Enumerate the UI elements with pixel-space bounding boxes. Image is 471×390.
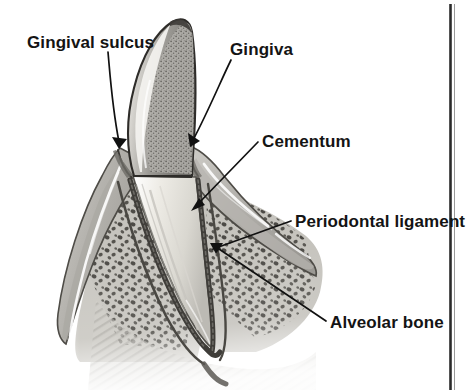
leader-gingiva bbox=[193, 60, 231, 140]
leader-gingival-sulcus bbox=[108, 52, 119, 142]
label-alveolar-bone: Alveolar bone bbox=[330, 313, 444, 332]
periodontium-illustration: Gingival sulcus Gingiva Cementum Periodo… bbox=[0, 0, 471, 390]
label-gingival-sulcus: Gingival sulcus bbox=[27, 33, 154, 52]
label-gingiva: Gingiva bbox=[230, 40, 293, 59]
illustration-body bbox=[46, 19, 340, 390]
label-cementum: Cementum bbox=[262, 132, 351, 151]
label-periodontal-ligament: Periodontal ligament bbox=[295, 212, 465, 231]
arrowhead-gingival-sulcus bbox=[112, 137, 127, 149]
anatomical-figure: Gingival sulcus Gingiva Cementum Periodo… bbox=[0, 0, 471, 390]
page-edge bbox=[451, 4, 455, 390]
